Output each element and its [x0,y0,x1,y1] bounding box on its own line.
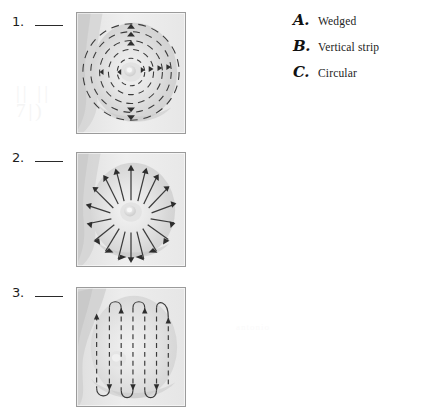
ghost-bleedthrough-left-2: 7|) [16,100,45,122]
breast-exam-circular-pattern [76,12,186,134]
breast-exam-vertical-strip-pattern [76,287,186,407]
ghost-bleedthrough-right: antonio [236,322,270,332]
question-row-3: 3. [12,285,63,300]
answer-key-label-b: Vertical strip [318,41,379,53]
question-row-1: 1. [12,14,63,29]
answer-blank-1[interactable] [35,25,63,26]
question-number-3: 3. [12,285,29,300]
answer-key-label-a: Wedged [318,15,356,27]
question-number-2: 2. [12,150,29,165]
answer-key-option-b[interactable]: B. Vertical strip [293,37,379,55]
answer-key-letter-b: B. [293,37,318,55]
answer-key-option-a[interactable]: A. Wedged [293,11,356,29]
answer-key-option-c[interactable]: C. Circular [293,63,357,81]
answer-key-letter-a: A. [293,11,318,29]
answer-key-letter-c: C. [293,63,318,81]
answer-blank-3[interactable] [35,296,63,297]
answer-key-label-c: Circular [318,67,357,79]
answer-blank-2[interactable] [35,161,63,162]
ghost-bleedthrough-left-1: || || [16,82,51,104]
breast-exam-wedged-pattern [76,152,186,267]
question-number-1: 1. [12,14,29,29]
question-row-2: 2. [12,150,63,165]
